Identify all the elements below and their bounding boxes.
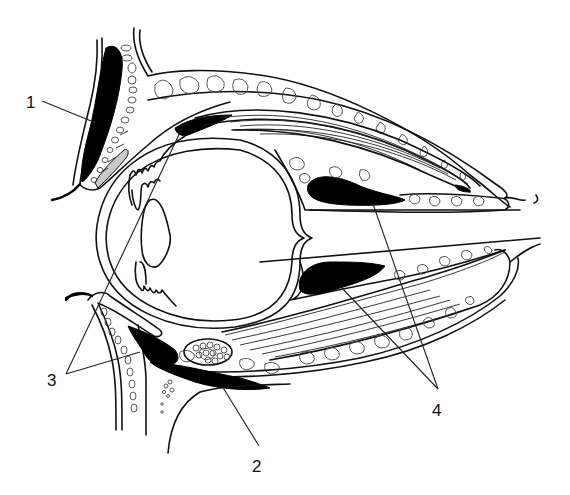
diagram-canvas: 1 2 3 4 [0, 0, 570, 495]
lens [141, 199, 170, 267]
leader-line-3b [66, 352, 140, 374]
eye-orbit-diagram: 1 2 3 4 [0, 0, 570, 495]
label-3: 3 [47, 371, 56, 390]
label-2: 2 [252, 457, 261, 476]
leader-line-2 [222, 386, 259, 446]
extraconal-fat-pad-upper [308, 177, 405, 206]
label-4: 4 [432, 401, 441, 420]
callout-4: 4 [341, 204, 441, 420]
callout-2: 2 [222, 386, 261, 476]
eyeball [96, 138, 312, 328]
label-1: 1 [26, 93, 35, 112]
superior-retrobulbar-fat [275, 150, 538, 212]
leader-line-4a [373, 204, 438, 389]
lower-lid-fat-pad [128, 326, 178, 366]
callout-1: 1 [26, 93, 96, 123]
